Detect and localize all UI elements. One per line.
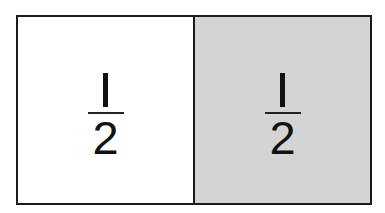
denominator: 2	[269, 118, 295, 158]
numerator-one	[103, 73, 108, 107]
fraction-rectangle: 2 2	[16, 15, 372, 205]
left-half-cell: 2	[18, 17, 195, 203]
right-half-cell-shaded: 2	[195, 17, 370, 203]
fraction-one-half-left: 2	[88, 73, 124, 158]
denominator: 2	[92, 118, 118, 158]
fraction-one-half-right: 2	[265, 73, 301, 158]
numerator-one	[280, 73, 285, 107]
